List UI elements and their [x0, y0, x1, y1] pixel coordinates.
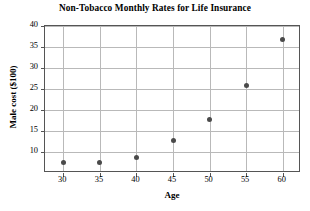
gridline-horizontal	[45, 26, 299, 27]
y-tick-label: 40	[30, 21, 38, 29]
gridline-horizontal	[45, 47, 299, 48]
gridline-vertical	[283, 26, 284, 171]
x-axis-title: Age	[44, 190, 300, 200]
x-tick-label: 40	[131, 176, 139, 184]
gridline-vertical	[210, 26, 211, 171]
chart-title: Non-Tobacco Monthly Rates for Life Insur…	[0, 3, 310, 13]
data-point	[280, 37, 285, 42]
y-axis-tick	[41, 68, 45, 69]
gridline-horizontal	[45, 110, 299, 111]
gridline-vertical	[100, 26, 101, 171]
y-tick-label: 25	[30, 84, 38, 92]
x-tick-label: 55	[241, 176, 249, 184]
gridline-vertical	[173, 26, 174, 171]
y-axis-tick	[41, 47, 45, 48]
data-point	[61, 160, 66, 165]
gridline-horizontal	[45, 89, 299, 90]
data-point	[207, 117, 212, 122]
plot-area	[44, 25, 300, 172]
data-point	[171, 138, 176, 143]
y-tick-label: 10	[30, 147, 38, 155]
y-axis-tick	[41, 110, 45, 111]
y-axis-tick	[41, 152, 45, 153]
gridline-vertical	[246, 26, 247, 171]
x-tick-label: 35	[95, 176, 103, 184]
gridline-vertical	[136, 26, 137, 171]
y-tick-label: 20	[30, 105, 38, 113]
y-axis-tick	[41, 89, 45, 90]
x-tick-label: 30	[58, 176, 66, 184]
gridline-horizontal	[45, 68, 299, 69]
x-tick-label: 50	[204, 176, 212, 184]
y-axis-tick	[41, 26, 45, 27]
gridline-horizontal	[45, 152, 299, 153]
x-tick-label: 60	[278, 176, 286, 184]
x-axis-tick-labels: 30354045505560	[44, 176, 300, 190]
gridline-vertical	[63, 26, 64, 171]
gridline-horizontal	[45, 131, 299, 132]
y-tick-label: 15	[30, 126, 38, 134]
data-point	[134, 155, 139, 160]
x-tick-label: 45	[168, 176, 176, 184]
y-axis-tick-labels: 10152025303540	[0, 25, 38, 172]
chart-container: Non-Tobacco Monthly Rates for Life Insur…	[0, 0, 310, 211]
data-point	[97, 160, 102, 165]
y-tick-label: 35	[30, 42, 38, 50]
data-point	[244, 83, 249, 88]
y-axis-tick	[41, 131, 45, 132]
y-tick-label: 30	[30, 63, 38, 71]
